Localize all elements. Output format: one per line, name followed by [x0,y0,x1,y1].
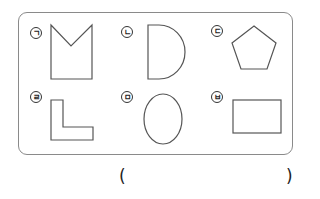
ellipse-shape [143,93,183,145]
label-nieun: ㄴ [121,26,133,38]
label-rieul: ㄹ [30,91,42,103]
answer-open-paren: ( [119,166,126,186]
d-shape [147,24,187,80]
notched-square-shape [50,24,94,80]
label-digeut: ㄷ [211,25,223,37]
label-bieup: ㅂ [211,91,223,103]
label-giyeok: ㄱ [30,27,42,39]
label-mieum: ㅁ [121,91,133,103]
l-shape [50,99,95,141]
pentagon-shape [231,25,277,71]
rectangle-shape [232,99,282,135]
answer-close-paren: ) [286,166,293,186]
